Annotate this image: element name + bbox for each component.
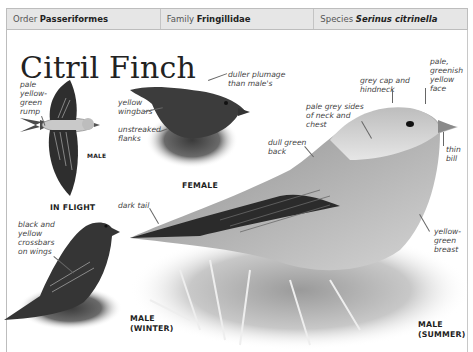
male-winter-caption: MALE (WINTER) xyxy=(130,314,173,333)
annotation-black-yellow-crossbars: black and yellow crossbars on wings xyxy=(18,220,55,256)
in-flight-caption: IN FLIGHT xyxy=(50,203,95,213)
annotation-duller-plumage: duller plumage than male's xyxy=(228,70,285,88)
annotation-pale-yellow-green-rump: pale yellow- green rump xyxy=(20,80,47,116)
female-caption: FEMALE xyxy=(182,181,218,191)
annotation-yellow-wingbars: yellow wingbars xyxy=(118,98,153,116)
annotation-yellow-green-breast: yellow- green breast xyxy=(434,227,461,254)
annotation-dark-tail: dark tail xyxy=(118,201,149,210)
illustrations xyxy=(0,0,473,352)
annotation-grey-cap-hindneck: grey cap and hindneck xyxy=(360,76,410,94)
annotation-dull-green-back: dull green back xyxy=(268,138,306,156)
leader-line xyxy=(443,132,444,146)
leader-line xyxy=(392,89,393,103)
annotation-pale-grey-sides: pale grey sides of neck and chest xyxy=(306,102,364,129)
leader-line xyxy=(425,88,426,104)
in-flight-sex-label: MALE xyxy=(87,151,106,161)
annotation-thin-bill: thin bill xyxy=(446,145,461,163)
male-summer-caption: MALE (SUMMER) xyxy=(418,320,466,339)
annotation-pale-greenish-yellow-face: pale, greenish yellow face xyxy=(430,57,463,93)
annotation-unstreaked-flanks: unstreaked flanks xyxy=(118,125,161,143)
